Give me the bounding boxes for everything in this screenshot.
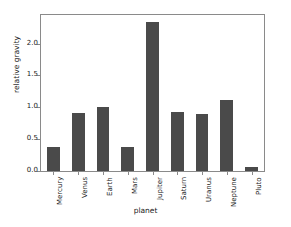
- bar-rect: [121, 147, 134, 171]
- x-tick-mark: [252, 171, 253, 175]
- y-tick-label: 2.0: [27, 39, 38, 48]
- x-tick-mark: [103, 171, 104, 175]
- bar-mars: [121, 15, 134, 171]
- bar-rect: [196, 114, 209, 171]
- bar-rect: [146, 22, 159, 171]
- x-tick-mark: [53, 171, 54, 175]
- bar-series: [41, 15, 264, 171]
- y-tick-label: 0.0: [27, 166, 38, 175]
- x-tick-mark: [202, 171, 203, 175]
- x-tick-label-pluto: Pluto: [255, 177, 263, 195]
- x-tick-label-mercury: Mercury: [56, 177, 64, 205]
- x-tick-label-uranus: Uranus: [205, 177, 213, 202]
- bar-rect: [171, 112, 184, 171]
- bar-neptune: [220, 15, 233, 171]
- bar-rect: [220, 100, 233, 171]
- y-tick-label: 1.5: [27, 70, 38, 79]
- x-tick-label-neptune: Neptune: [230, 177, 238, 207]
- bar-rect: [72, 113, 85, 171]
- bar-saturn: [171, 15, 184, 171]
- x-tick-mark: [177, 171, 178, 175]
- bar-pluto: [245, 15, 258, 171]
- x-tick-label-jupiter: Jupiter: [156, 177, 164, 200]
- x-tick-mark: [153, 171, 154, 175]
- y-axis-title: relative gravity: [12, 36, 21, 93]
- bar-rect: [47, 147, 60, 171]
- x-tick-mark: [128, 171, 129, 175]
- bar-mercury: [47, 15, 60, 171]
- chart-figure: 0.00.51.01.52.0 MercuryVenusEarthMarsJup…: [0, 0, 291, 227]
- x-tick-mark: [227, 171, 228, 175]
- bar-venus: [72, 15, 85, 171]
- x-tick-label-venus: Venus: [81, 177, 89, 198]
- bar-uranus: [196, 15, 209, 171]
- plot-area: 0.00.51.01.52.0 MercuryVenusEarthMarsJup…: [40, 14, 265, 172]
- y-tick-label: 0.5: [27, 134, 38, 143]
- x-tick-label-mars: Mars: [131, 177, 139, 194]
- bar-jupiter: [146, 15, 159, 171]
- x-tick-mark: [78, 171, 79, 175]
- x-tick-label-earth: Earth: [106, 177, 114, 196]
- x-axis-title: planet: [0, 206, 291, 215]
- bar-earth: [97, 15, 110, 171]
- x-tick-label-saturn: Saturn: [180, 177, 188, 200]
- y-tick-label: 1.0: [27, 102, 38, 111]
- bar-rect: [97, 107, 110, 171]
